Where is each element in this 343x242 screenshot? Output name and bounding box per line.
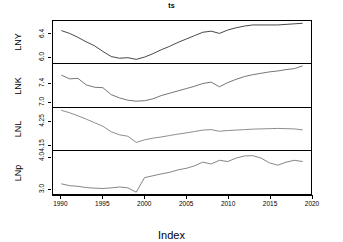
panel-label-lnp: LNp (12, 153, 24, 193)
x-tick-mark-1990 (60, 195, 61, 199)
chart-title: ts (0, 2, 343, 9)
panel-label-lnk: LNK (12, 66, 24, 106)
panel-lny (52, 20, 312, 64)
x-tick-mark-2010 (228, 195, 229, 199)
plot-region (52, 20, 312, 195)
y-tick-mark-lnk-0 (48, 83, 51, 84)
x-tick-label-2000: 2000 (129, 200, 159, 207)
x-tick-mark-2020 (312, 195, 313, 199)
chart-container: ts Index LNY6.46.0LNK7.47.0LNL4.254.15LN… (0, 0, 343, 242)
y-tick-label-lny-0: 6.4 (36, 22, 45, 44)
y-tick-mark-lnl-0 (48, 121, 51, 122)
x-tick-mark-2000 (144, 195, 145, 199)
x-axis-line (52, 195, 312, 196)
y-tick-label-lnp-1: 3.0 (36, 178, 45, 200)
y-tick-label-lnl-0: 4.25 (36, 110, 45, 132)
y-tick-mark-lny-0 (48, 33, 51, 34)
x-tick-label-2015: 2015 (255, 200, 285, 207)
series-line-lnl (61, 110, 302, 142)
y-tick-mark-lny-1 (48, 57, 51, 58)
panel-label-lny: LNY (12, 22, 24, 62)
panel-lnk (52, 64, 312, 108)
x-tick-label-1995: 1995 (87, 200, 117, 207)
panel-lnl (52, 108, 312, 152)
x-tick-label-2005: 2005 (171, 200, 201, 207)
x-tick-label-2020: 2020 (297, 200, 327, 207)
x-tick-label-2010: 2010 (213, 200, 243, 207)
y-tick-mark-lnk-1 (48, 102, 51, 103)
panel-label-lnl: LNL (12, 109, 24, 149)
series-line-lnp (61, 156, 302, 193)
y-tick-mark-lnp-0 (48, 157, 51, 158)
y-tick-mark-lnp-1 (48, 189, 51, 190)
x-tick-label-1990: 1990 (45, 200, 75, 207)
x-tick-mark-2015 (270, 195, 271, 199)
y-tick-label-lny-1: 6.0 (36, 46, 45, 68)
x-axis-label: Index (0, 229, 343, 241)
x-tick-mark-2005 (186, 195, 187, 199)
series-line-lnk (61, 66, 302, 101)
series-line-lny (61, 23, 302, 59)
y-tick-mark-lnl-1 (48, 145, 51, 146)
y-tick-label-lnp-0: 4.0 (36, 146, 45, 168)
x-tick-mark-1995 (102, 195, 103, 199)
panel-lnp (52, 151, 312, 195)
